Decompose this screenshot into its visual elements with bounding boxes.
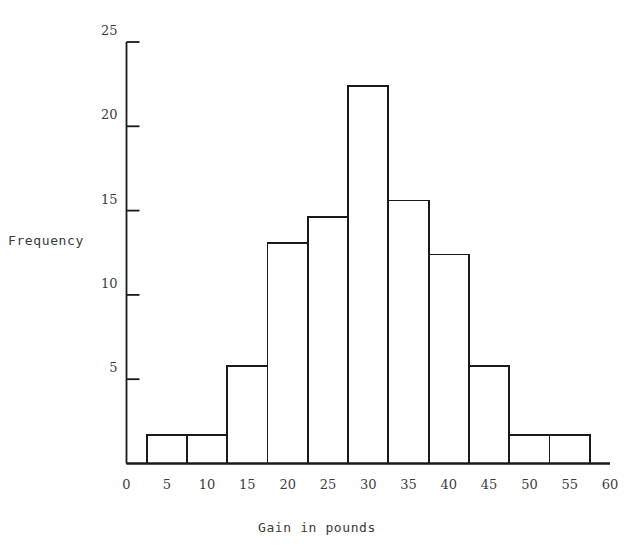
x-tick-label: 60: [602, 477, 619, 492]
x-tick-label: 5: [163, 477, 171, 492]
histogram-bar: [308, 217, 348, 463]
x-tick-label: 10: [199, 477, 216, 492]
histogram-bar: [509, 435, 549, 464]
x-axis-title: Gain in pounds: [258, 520, 376, 535]
histogram-bar: [268, 243, 308, 464]
histogram-bar: [187, 435, 227, 464]
x-tick-label: 15: [239, 477, 256, 492]
x-tick-label: 25: [320, 477, 337, 492]
histogram-bars: [127, 86, 611, 464]
y-axis-ticks: [127, 42, 140, 379]
y-tick-label: 10: [101, 276, 118, 291]
y-tick-label: 5: [109, 360, 117, 375]
y-axis-tick-labels: 510152025: [101, 23, 118, 375]
y-tick-label: 15: [101, 192, 118, 207]
x-tick-label: 40: [441, 477, 458, 492]
y-axis-title: Frequency: [8, 233, 84, 248]
x-tick-label: 55: [561, 477, 578, 492]
x-tick-label: 50: [521, 477, 538, 492]
histogram-bar: [550, 435, 590, 464]
y-tick-label: 20: [101, 107, 118, 122]
x-axis-tick-labels: 051015202530354045505560: [122, 477, 618, 492]
histogram-bar: [429, 254, 469, 463]
histogram-plot-area: 510152025 051015202530354045505560: [0, 0, 642, 558]
histogram-bar: [147, 435, 187, 464]
x-tick-label: 20: [279, 477, 296, 492]
x-tick-label: 30: [360, 477, 377, 492]
x-tick-label: 0: [122, 477, 130, 492]
histogram-bar: [388, 200, 428, 463]
histogram-bar: [227, 366, 267, 464]
histogram-figure: Frequency Gain in pounds 510152025 05101…: [0, 0, 642, 558]
histogram-bar: [348, 86, 388, 464]
histogram-bar: [469, 366, 509, 464]
x-tick-label: 35: [400, 477, 417, 492]
y-tick-label: 25: [101, 23, 118, 38]
x-tick-label: 45: [481, 477, 498, 492]
